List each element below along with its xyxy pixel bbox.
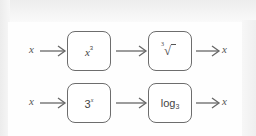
machine-box-cube: x3: [67, 31, 111, 71]
arrow-icon: [40, 50, 66, 52]
arrow-icon: [116, 50, 147, 52]
machine-box-cube-root: 3√: [148, 31, 192, 71]
output-variable: x: [222, 43, 227, 55]
machine-box-exponential: 3x: [67, 83, 111, 123]
arrow-icon: [40, 102, 66, 104]
arrow-icon: [196, 102, 220, 104]
function-row-cube: x x3 3√ x: [0, 31, 256, 73]
arrow-icon: [196, 50, 220, 52]
arrow-icon: [116, 102, 147, 104]
cube-root-icon: 3√: [164, 43, 176, 59]
input-variable: x: [29, 43, 34, 55]
function-row-exponential: x 3x log3 x: [0, 83, 256, 125]
machine-label: log3: [161, 97, 180, 110]
output-variable: x: [222, 95, 227, 107]
diagram-canvas: x x3 3√ x x 3x log3: [0, 0, 256, 136]
machine-label: 3x: [85, 97, 94, 110]
input-variable: x: [29, 95, 34, 107]
machine-label: x3: [85, 45, 93, 58]
machine-box-logarithm: log3: [148, 83, 192, 123]
